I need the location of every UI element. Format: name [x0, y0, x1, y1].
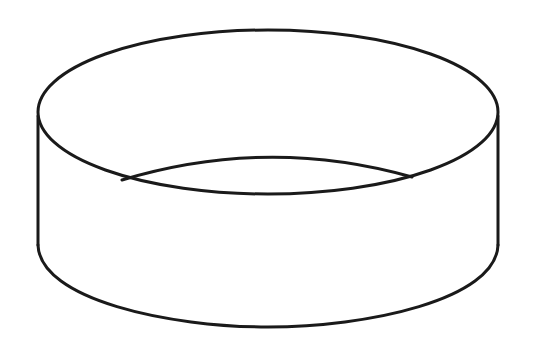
inner-back-edge — [122, 157, 412, 180]
cylinder-diagram — [0, 0, 536, 362]
top-rim-ellipse — [38, 30, 498, 194]
bottom-front-arc — [38, 245, 498, 327]
